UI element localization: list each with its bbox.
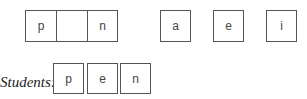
vowel-choice-a[interactable]: a <box>160 10 191 42</box>
vowel-choice-e[interactable]: e <box>213 10 244 42</box>
students-cell-1: p <box>53 63 84 94</box>
vowel-choice-i[interactable]: i <box>266 10 297 42</box>
word-frame-cell-1: p <box>25 10 57 42</box>
word-frame-cell-2-blank[interactable] <box>56 10 88 42</box>
students-label: Students: <box>0 74 56 91</box>
students-cell-3: n <box>120 63 151 94</box>
word-frame-cell-3: n <box>87 10 118 42</box>
students-cell-2: e <box>87 63 118 94</box>
